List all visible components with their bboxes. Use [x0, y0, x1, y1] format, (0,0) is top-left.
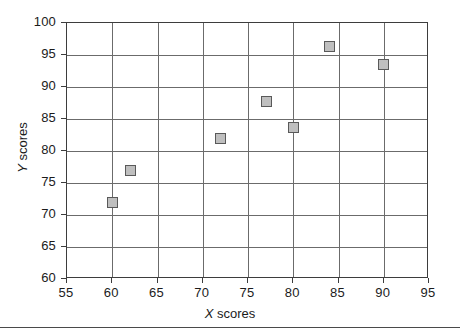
bottom-divider-rule	[0, 327, 460, 328]
gridline-vertical	[112, 23, 113, 277]
data-point-marker	[215, 133, 226, 144]
y-axis-tick	[61, 86, 66, 87]
y-axis-tick-label: 65	[18, 238, 56, 253]
x-axis-tick	[338, 278, 339, 283]
x-axis-tick-label: 95	[408, 285, 448, 300]
gridline-horizontal	[67, 247, 427, 248]
y-axis-tick-label: 85	[18, 110, 56, 125]
data-point-marker	[261, 96, 272, 107]
x-axis-tick	[292, 278, 293, 283]
gridline-vertical	[203, 23, 204, 277]
gridline-horizontal	[67, 183, 427, 184]
x-axis-tick-label: 75	[227, 285, 267, 300]
x-axis-title: X scores	[0, 306, 460, 321]
gridline-vertical	[339, 23, 340, 277]
gridline-vertical	[293, 23, 294, 277]
x-axis-tick-label: 80	[272, 285, 312, 300]
y-axis-tick-label: 60	[18, 270, 56, 285]
x-axis-tick	[202, 278, 203, 283]
y-axis-tick	[61, 182, 66, 183]
y-axis-tick-label: 70	[18, 206, 56, 221]
x-axis-tick	[247, 278, 248, 283]
data-point-marker	[107, 197, 118, 208]
x-axis-title-suffix: scores	[213, 306, 255, 321]
data-point-marker	[288, 122, 299, 133]
y-axis-tick	[61, 246, 66, 247]
data-point-marker	[378, 59, 389, 70]
gridline-vertical	[158, 23, 159, 277]
y-axis-variable: Y	[15, 164, 30, 173]
x-axis-tick-label: 70	[182, 285, 222, 300]
x-axis-tick-label: 90	[363, 285, 403, 300]
x-axis-tick	[66, 278, 67, 283]
y-axis-tick-label: 90	[18, 78, 56, 93]
y-axis-tick	[61, 214, 66, 215]
x-axis-tick-label: 85	[318, 285, 358, 300]
y-axis-tick-label: 80	[18, 142, 56, 157]
gridline-horizontal	[67, 119, 427, 120]
gridline-horizontal	[67, 151, 427, 152]
y-axis-tick	[61, 118, 66, 119]
y-axis-tick-label: 75	[18, 174, 56, 189]
x-axis-tick	[383, 278, 384, 283]
y-axis-tick	[61, 278, 66, 279]
y-axis-tick	[61, 54, 66, 55]
gridline-horizontal	[67, 55, 427, 56]
plot-area	[66, 22, 428, 278]
y-axis-tick	[61, 150, 66, 151]
gridline-horizontal	[67, 215, 427, 216]
x-axis-tick-label: 65	[137, 285, 177, 300]
x-axis-tick	[428, 278, 429, 283]
y-axis-tick-label: 95	[18, 46, 56, 61]
x-axis-tick	[111, 278, 112, 283]
gridline-vertical	[248, 23, 249, 277]
y-axis-tick-label: 100	[18, 14, 56, 29]
x-axis-tick	[157, 278, 158, 283]
y-axis-tick	[61, 22, 66, 23]
scatter-plot-figure: X scores Y scores 5560657075808590956065…	[0, 0, 460, 336]
gridline-horizontal	[67, 87, 427, 88]
x-axis-tick-label: 55	[46, 285, 86, 300]
x-axis-tick-label: 60	[91, 285, 131, 300]
data-point-marker	[125, 165, 136, 176]
data-point-marker	[324, 41, 335, 52]
